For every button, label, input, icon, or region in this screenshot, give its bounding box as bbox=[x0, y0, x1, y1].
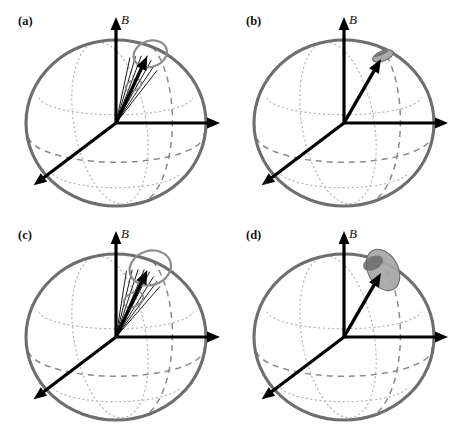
panel-label-d: (d) bbox=[246, 228, 261, 243]
bloch-sphere-figure: (a)B(b)B(c)B(d)B bbox=[0, 0, 455, 427]
bloch-sphere-panel-d: (d)B bbox=[0, 0, 455, 427]
field-axis-arrow-d bbox=[339, 231, 350, 337]
moment-tip-marker-d bbox=[359, 243, 406, 296]
field-axis-label-d: B bbox=[349, 226, 357, 242]
